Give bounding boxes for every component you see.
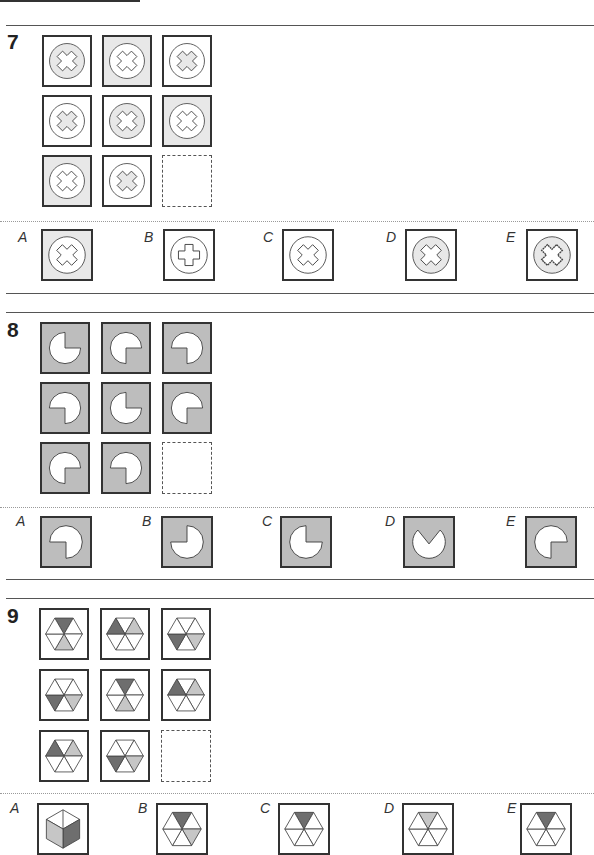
answer-option-d[interactable] (405, 229, 457, 281)
figure (103, 324, 149, 372)
matrix-cell (40, 442, 90, 494)
header-bar (0, 0, 140, 2)
figure (165, 231, 213, 279)
section-divider (6, 293, 594, 294)
figure (528, 231, 576, 279)
figure (164, 37, 210, 85)
figure (102, 610, 148, 658)
matrix-cell (162, 322, 212, 374)
figure (164, 97, 210, 145)
answer-option-e[interactable] (520, 803, 572, 855)
matrix-cell (42, 155, 92, 207)
figure (42, 444, 88, 492)
figure (102, 732, 148, 780)
figure (42, 518, 90, 566)
missing-cell (161, 730, 211, 782)
matrix-cell (102, 155, 152, 207)
answer-option-e[interactable] (526, 229, 578, 281)
figure (282, 518, 330, 566)
figure (104, 97, 150, 145)
figure (44, 97, 90, 145)
options-divider (0, 793, 594, 794)
figure (164, 384, 210, 432)
answer-option-a[interactable] (37, 803, 89, 855)
matrix-cell (100, 669, 150, 721)
matrix-cell (100, 730, 150, 782)
matrix-cell (162, 382, 212, 434)
figure (158, 805, 206, 853)
section-divider (6, 25, 594, 26)
section-divider (6, 312, 594, 313)
figure (41, 610, 87, 658)
option-label-e: E (507, 800, 516, 816)
figure (42, 324, 88, 372)
answer-option-e[interactable] (525, 516, 577, 568)
option-label-e: E (506, 229, 515, 245)
option-label-b: B (142, 513, 151, 529)
figure (103, 384, 149, 432)
matrix-cell (40, 382, 90, 434)
options-divider (0, 507, 594, 508)
option-label-c: C (263, 229, 273, 245)
matrix-cell (39, 669, 89, 721)
matrix-cell (161, 608, 211, 660)
matrix-cell (39, 730, 89, 782)
options-divider (0, 221, 594, 222)
figure (41, 732, 87, 780)
section-divider (6, 579, 594, 580)
matrix-cell (162, 95, 212, 147)
figure (163, 610, 209, 658)
option-label-d: D (384, 800, 394, 816)
figure (102, 671, 148, 719)
answer-option-c[interactable] (280, 516, 332, 568)
figure (407, 231, 455, 279)
matrix-cell (101, 322, 151, 374)
option-label-a: A (18, 229, 27, 245)
figure (41, 671, 87, 719)
matrix-cell (102, 95, 152, 147)
figure (104, 157, 150, 205)
missing-cell (162, 442, 212, 494)
option-label-d: D (386, 229, 396, 245)
matrix-cell (39, 608, 89, 660)
matrix-cell (42, 95, 92, 147)
figure (44, 37, 90, 85)
matrix-cell (102, 35, 152, 87)
figure (44, 157, 90, 205)
option-label-a: A (10, 800, 19, 816)
answer-option-a[interactable] (41, 229, 93, 281)
figure (164, 324, 210, 372)
figure (404, 805, 452, 853)
answer-option-a[interactable] (40, 516, 92, 568)
matrix-cell (100, 608, 150, 660)
figure (163, 518, 211, 566)
matrix-cell (161, 669, 211, 721)
answer-option-d[interactable] (402, 803, 454, 855)
option-label-b: B (138, 800, 147, 816)
matrix-cell (101, 382, 151, 434)
figure (522, 805, 570, 853)
option-label-d: D (385, 513, 395, 529)
figure (39, 805, 87, 853)
figure (280, 805, 328, 853)
figure (104, 37, 150, 85)
answer-option-b[interactable] (161, 516, 213, 568)
matrix-cell (162, 35, 212, 87)
option-label-c: C (262, 513, 272, 529)
answer-option-c[interactable] (278, 803, 330, 855)
figure (405, 518, 453, 566)
matrix-cell (101, 442, 151, 494)
question-number-8: 8 (7, 318, 19, 342)
answer-option-d[interactable] (403, 516, 455, 568)
answer-option-c[interactable] (282, 229, 334, 281)
answer-option-b[interactable] (156, 803, 208, 855)
figure (103, 444, 149, 492)
question-number-9: 9 (7, 604, 19, 628)
matrix-cell (40, 322, 90, 374)
question-number-7: 7 (7, 30, 19, 54)
option-label-b: B (144, 229, 153, 245)
figure (43, 231, 91, 279)
figure (527, 518, 575, 566)
answer-option-b[interactable] (163, 229, 215, 281)
figure (284, 231, 332, 279)
